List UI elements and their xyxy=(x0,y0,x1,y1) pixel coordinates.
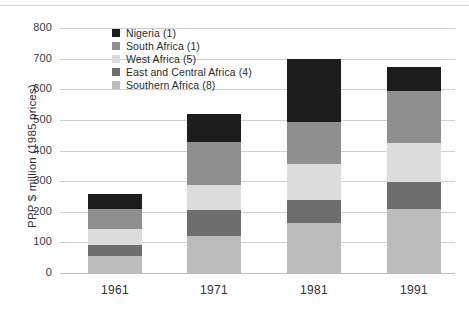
legend-item-south-africa[interactable]: South Africa (1) xyxy=(112,40,252,53)
legend-item-west-africa[interactable]: West Africa (5) xyxy=(112,53,252,66)
legend-item-nigeria[interactable]: Nigeria (1) xyxy=(112,27,252,40)
legend-swatch-icon xyxy=(112,29,120,37)
bar-segment-1991-south-africa[interactable] xyxy=(387,91,441,143)
y-tick-label-0: 0 xyxy=(12,267,52,278)
bar-segment-1981-west-africa[interactable] xyxy=(287,164,341,199)
legend-item-label: Southern Africa (8) xyxy=(126,79,215,91)
bar-segment-1961-south-africa[interactable] xyxy=(88,209,142,229)
x-tick-label-1991: 1991 xyxy=(374,283,454,297)
x-tick-label-1961: 1961 xyxy=(75,283,155,297)
bar-segment-1981-south-africa[interactable] xyxy=(287,122,341,164)
bar-segment-1991-southern-africa[interactable] xyxy=(387,209,441,273)
chart-container: 0100200300400500600700800 PPP $ million … xyxy=(0,0,469,309)
x-tick-label-1971: 1971 xyxy=(174,283,254,297)
legend-item-label: South Africa (1) xyxy=(126,40,200,52)
legend: Nigeria (1)South Africa (1)West Africa (… xyxy=(112,27,252,92)
legend-swatch-icon xyxy=(112,42,120,50)
legend-item-label: East and Central Africa (4) xyxy=(126,66,252,78)
y-axis-title: PPP $ million (1985 prices) xyxy=(26,56,38,256)
legend-item-southern-africa[interactable]: Southern Africa (8) xyxy=(112,79,252,92)
bar-segment-1961-west-africa[interactable] xyxy=(88,229,142,245)
bar-segment-1961-southern-africa[interactable] xyxy=(88,256,142,273)
bar-segment-1991-east-and-central-africa[interactable] xyxy=(387,182,441,209)
x-tick-label-1981: 1981 xyxy=(274,283,354,297)
bar-1991[interactable] xyxy=(387,0,441,309)
bar-segment-1991-west-africa[interactable] xyxy=(387,143,441,182)
legend-swatch-icon xyxy=(112,81,120,89)
bar-segment-1971-east-and-central-africa[interactable] xyxy=(187,210,241,236)
legend-item-label: West Africa (5) xyxy=(126,53,196,65)
bar-1981[interactable] xyxy=(287,0,341,309)
bar-segment-1981-nigeria[interactable] xyxy=(287,59,341,123)
legend-swatch-icon xyxy=(112,55,120,63)
bar-segment-1981-east-and-central-africa[interactable] xyxy=(287,200,341,224)
bar-segment-1981-southern-africa[interactable] xyxy=(287,223,341,273)
bar-segment-1971-southern-africa[interactable] xyxy=(187,236,241,273)
bar-segment-1961-east-and-central-africa[interactable] xyxy=(88,245,142,256)
legend-swatch-icon xyxy=(112,68,120,76)
legend-item-label: Nigeria (1) xyxy=(126,27,176,39)
bar-segment-1971-west-africa[interactable] xyxy=(187,185,241,210)
bar-segment-1991-nigeria[interactable] xyxy=(387,67,441,91)
legend-item-east-and-central-africa[interactable]: East and Central Africa (4) xyxy=(112,66,252,79)
y-tick-label-800: 800 xyxy=(12,22,52,33)
bar-segment-1971-south-africa[interactable] xyxy=(187,142,241,185)
bar-segment-1961-nigeria[interactable] xyxy=(88,194,142,209)
bar-segment-1971-nigeria[interactable] xyxy=(187,114,241,142)
